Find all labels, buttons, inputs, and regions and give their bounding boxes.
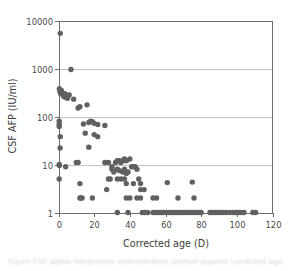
data-point (57, 145, 62, 150)
data-point (198, 210, 203, 215)
data-point (134, 166, 139, 171)
data-point (104, 187, 109, 192)
x-tick-label: 120 (266, 220, 282, 230)
data-point (79, 195, 84, 200)
y-tick-label: 1000 (32, 65, 53, 75)
x-axis-title: Corrected age (D) (123, 238, 209, 249)
data-point (57, 176, 62, 181)
data-point (77, 104, 82, 109)
data-points (57, 31, 259, 216)
y-axis-title: CSF AFP (IU/ml) (7, 79, 18, 154)
data-point (145, 210, 150, 215)
data-point (175, 195, 180, 200)
tick-marks (55, 22, 274, 218)
data-point (125, 169, 130, 174)
data-point (131, 181, 136, 186)
data-point (127, 156, 132, 161)
data-point (58, 31, 63, 36)
data-point (124, 181, 129, 186)
data-point (115, 210, 120, 215)
data-point (190, 179, 195, 184)
figure-container: 110100100010000 020406080100120 Correcte… (0, 0, 291, 271)
data-point (106, 160, 111, 165)
data-point (95, 134, 100, 139)
data-point (90, 195, 95, 200)
x-tick-labels: 020406080100120 (57, 220, 282, 230)
data-point (83, 130, 88, 135)
data-point (241, 210, 246, 215)
data-point (191, 195, 196, 200)
data-point (253, 210, 258, 215)
data-point (68, 67, 73, 72)
data-point (63, 164, 68, 169)
data-point (57, 124, 62, 129)
scatter-chart: 110100100010000 020406080100120 Correcte… (0, 0, 291, 271)
data-point (122, 176, 127, 181)
y-tick-labels: 110100100010000 (26, 17, 53, 219)
x-tick-label: 100 (230, 220, 246, 230)
gridlines (59, 22, 273, 166)
x-tick-label: 80 (196, 220, 207, 230)
data-point (108, 176, 113, 181)
data-point (58, 134, 63, 139)
data-point (127, 195, 132, 200)
x-tick-label: 40 (125, 220, 136, 230)
x-tick-label: 0 (57, 220, 62, 230)
data-point (84, 102, 89, 107)
data-point (77, 181, 82, 186)
data-point (138, 195, 143, 200)
figure-caption-text: Figure CSF alpha-fetoprotein concentrati… (8, 257, 285, 266)
y-tick-label: 100 (37, 113, 53, 123)
data-point (102, 123, 107, 128)
x-tick-label: 20 (89, 220, 100, 230)
figure-caption: Figure CSF alpha-fetoprotein concentrati… (8, 257, 285, 269)
y-tick-label: 10000 (26, 17, 53, 27)
data-point (57, 163, 62, 168)
data-point (125, 210, 130, 215)
y-tick-label: 1 (48, 209, 53, 219)
data-point (81, 121, 86, 126)
data-point (138, 181, 143, 186)
data-point (67, 92, 72, 97)
data-point (154, 195, 159, 200)
x-tick-label: 60 (161, 220, 172, 230)
data-point (165, 180, 170, 185)
data-point (75, 160, 80, 165)
data-point (141, 187, 146, 192)
data-point (95, 122, 100, 127)
data-point (86, 144, 91, 149)
data-point (136, 176, 141, 181)
y-tick-label: 10 (42, 161, 53, 171)
data-point (71, 96, 76, 101)
